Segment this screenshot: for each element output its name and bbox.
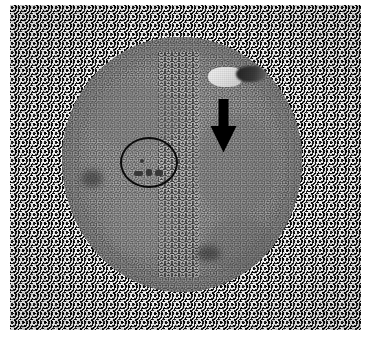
encircled-structure [155, 170, 163, 176]
encircled-structure [146, 169, 152, 176]
cytoplasm-dark-speck [81, 170, 103, 188]
cytoplasm-blob [206, 216, 273, 272]
circle-annotation [120, 137, 178, 188]
cytoplasm-blob [105, 195, 177, 256]
encircled-structure [140, 159, 144, 163]
cell-body [62, 37, 302, 292]
encircled-structure [134, 171, 143, 176]
dark-patch [236, 66, 266, 82]
figure-root [0, 0, 371, 337]
down-arrow-icon [210, 99, 237, 153]
micrograph-image [10, 5, 361, 330]
